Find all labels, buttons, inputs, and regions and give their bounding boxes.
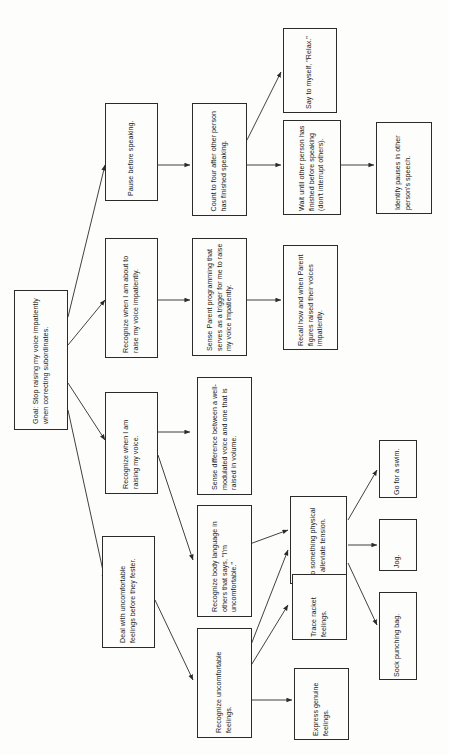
edge-goal-to-recognize-raising	[68, 383, 105, 440]
node-recognize-about-to-raise[interactable]: Recognize when I am about to raise my vo…	[105, 238, 158, 358]
node-identify-pauses-label: Identify pauses in other person's speech…	[394, 126, 413, 210]
edge-goal-to-recognize-about	[68, 300, 105, 345]
node-do-something-physical-label: Do something physical to alleviate tensi…	[309, 500, 328, 580]
node-go-for-swim[interactable]: Go for a swim.	[379, 440, 417, 498]
edge-recognize-uncomf-to-trace	[247, 605, 288, 672]
node-recognize-raising-voice[interactable]: Recognize when I am raising my voice.	[105, 392, 158, 494]
node-recognize-about-to-raise-label: Recognize when I am about to raise my vo…	[122, 243, 141, 353]
node-recognize-uncomfortable-feelings-label: Recognize uncomfortable feelings.	[215, 633, 234, 733]
node-sense-voice-difference-label: Sense difference between a well-modulate…	[210, 382, 239, 490]
node-sock-punching-bag[interactable]: Sock punching bag.	[379, 592, 417, 680]
node-trace-racket-feelings-label: Trace racket feelings.	[310, 577, 329, 637]
node-say-relax-label: Say to myself, "Relax."	[305, 33, 315, 109]
node-jog-label: Jog.	[393, 522, 403, 568]
node-recognize-uncomfortable-feelings[interactable]: Recognize uncomfortable feelings.	[197, 628, 252, 738]
edge-physical-to-sock	[348, 563, 377, 625]
node-identify-pauses[interactable]: Identify pauses in other person's speech…	[376, 122, 432, 214]
node-sense-parent-programming[interactable]: Sense Parent programming that serves as …	[192, 238, 247, 356]
node-go-for-swim-label: Go for a swim.	[393, 443, 403, 495]
edge-recognize-raising-to-body-language	[158, 455, 193, 560]
node-recognize-body-language-label: Recognize body language in others that s…	[210, 510, 239, 612]
node-jog[interactable]: Jog.	[379, 519, 417, 571]
node-sense-parent-programming-label: Sense Parent programming that serves as …	[205, 243, 234, 351]
node-do-something-physical[interactable]: Do something physical to alleviate tensi…	[290, 496, 347, 584]
node-pause-before-speaking-label: Pause before speaking.	[127, 108, 137, 196]
edge-goal-to-deal-uncomfortable	[68, 410, 105, 580]
node-say-relax[interactable]: Say to myself, "Relax."	[283, 28, 337, 113]
node-deal-uncomfortable-feelings[interactable]: Deal with uncomfortable feelings before …	[102, 536, 155, 648]
edge-physical-to-swim	[348, 470, 377, 520]
node-sense-voice-difference[interactable]: Sense difference between a well-modulate…	[197, 377, 252, 495]
node-pause-before-speaking[interactable]: Pause before speaking.	[105, 103, 158, 201]
node-express-genuine-feelings-label: Express genuine feelings.	[312, 672, 331, 736]
node-goal-label: Goal: Stop raising my voice impatiently …	[31, 296, 51, 424]
node-recognize-body-language[interactable]: Recognize body language in others that s…	[197, 505, 252, 617]
edge-body-language-to-physical	[247, 530, 288, 545]
node-deal-uncomfortable-feelings-label: Deal with uncomfortable feelings before …	[119, 541, 138, 643]
edge-goal-to-pause	[68, 165, 105, 317]
edge-count-to-relax	[247, 72, 281, 140]
flowchart-canvas: Goal: Stop raising my voice impatiently …	[0, 0, 449, 755]
edge-deal-to-recognize-uncomfortable	[155, 600, 193, 680]
node-recall-parent-figures-label: Recall how and when Parent figures raise…	[296, 250, 325, 346]
edge-recognize-uncomf-to-physical	[247, 550, 288, 655]
node-sock-punching-bag-label: Sock punching bag.	[393, 595, 403, 677]
node-goal[interactable]: Goal: Stop raising my voice impatiently …	[14, 290, 68, 430]
node-express-genuine-feelings[interactable]: Express genuine feelings.	[294, 668, 349, 740]
node-recognize-raising-voice-label: Recognize when I am raising my voice.	[122, 397, 141, 489]
node-count-to-four[interactable]: Count to four after other person has fin…	[192, 103, 247, 216]
node-wait-until-finished[interactable]: Wait until other person has finished bef…	[283, 120, 341, 215]
node-trace-racket-feelings[interactable]: Trace racket feelings.	[292, 574, 347, 640]
node-count-to-four-label: Count to four after other person has fin…	[210, 108, 229, 211]
node-wait-until-finished-label: Wait until other person has finished bef…	[298, 125, 327, 211]
node-recall-parent-figures[interactable]: Recall how and when Parent figures raise…	[283, 245, 338, 350]
